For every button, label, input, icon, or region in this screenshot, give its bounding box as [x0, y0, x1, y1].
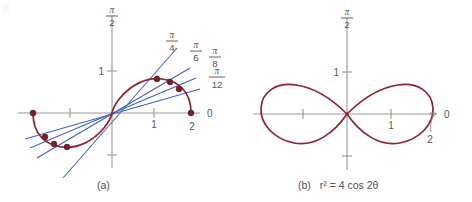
panel-b-vertical-axis-label: π 2 [341, 7, 353, 30]
panel-b-xtick-label-1: 1 [388, 120, 394, 131]
caption-panel-a: (a) [97, 179, 110, 191]
panel-b-max-radius-label: 2 [427, 134, 433, 145]
caption-panel-a-text: (a) [97, 179, 110, 191]
panel-b-axis-label-denominator: 2 [344, 19, 349, 30]
figure-root: π 2 1 1 2 0 π 4 π 6 π 8 π 12 [0, 0, 472, 202]
caption-panel-b-prefix: (b) [298, 179, 311, 191]
caption-panel-b-equation: r² = 4 cos 2θ [320, 179, 379, 191]
caption-panel-b: (b) r² = 4 cos 2θ [298, 179, 378, 191]
panel-b-axis-label-numerator: π [345, 7, 350, 17]
panel-b-ytick-label-1: 1 [333, 67, 339, 78]
panel-b-polar-axis-label: 0 [444, 109, 450, 120]
panel-b-node-origin [345, 112, 348, 115]
panel-b-lemniscate-complete: π 2 1 1 0 2 [0, 0, 472, 202]
